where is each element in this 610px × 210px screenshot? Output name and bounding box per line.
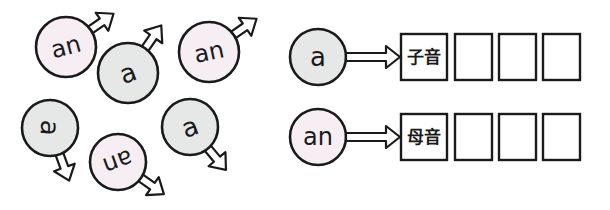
empty-slot	[543, 114, 580, 160]
sound-particle-vowel: an	[179, 10, 263, 82]
slot-row-vowel: an母音	[290, 109, 580, 165]
sound-slot-rows: a子音an母音	[290, 29, 580, 165]
sound-label: an	[303, 123, 333, 151]
empty-slot	[543, 34, 580, 80]
empty-slot	[499, 34, 536, 80]
sound-label: a	[310, 42, 326, 72]
category-label: 子音	[407, 47, 441, 67]
sound-label: a	[34, 119, 65, 137]
empty-slot	[455, 34, 492, 80]
empty-slot	[455, 114, 492, 160]
slot-row-consonant: a子音	[290, 29, 580, 85]
sound-particle-consonant: a	[162, 99, 234, 177]
category-label: 母音	[407, 127, 441, 147]
floating-sounds-cluster: anaanaana	[22, 5, 263, 203]
sound-particle-consonant: a	[22, 100, 79, 184]
sound-particle-vowel: an	[90, 134, 170, 203]
arrow-right-icon	[346, 46, 400, 68]
empty-slot	[499, 114, 536, 160]
arrow-right-icon	[346, 126, 400, 148]
diagram-canvas: anaanaana a子音an母音	[0, 0, 610, 210]
